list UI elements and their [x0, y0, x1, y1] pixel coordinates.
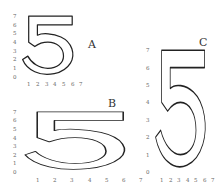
svg-text:1: 1 [36, 177, 40, 183]
svg-text:3: 3 [13, 48, 17, 54]
y-axis-ticks-a: 01234567 [13, 13, 17, 80]
svg-text:6: 6 [203, 177, 207, 183]
svg-text:4: 4 [88, 177, 92, 183]
svg-text:6: 6 [71, 81, 75, 87]
digit-five-grids-diagram: 01234567 1234567 A 01234567 1234567 B 01… [0, 0, 224, 191]
svg-text:4: 4 [53, 81, 57, 87]
x-axis-ticks-b: 1234567 [36, 177, 143, 183]
svg-text:5: 5 [105, 177, 109, 183]
svg-text:5: 5 [146, 82, 150, 88]
svg-text:4: 4 [186, 177, 190, 183]
svg-text:3: 3 [146, 117, 150, 123]
svg-text:5: 5 [13, 30, 17, 36]
svg-text:2: 2 [169, 177, 173, 183]
svg-text:1: 1 [146, 152, 150, 158]
svg-text:7: 7 [146, 47, 150, 53]
svg-text:5: 5 [13, 126, 17, 132]
x-axis-ticks-c: 1234567 [160, 177, 215, 183]
svg-text:2: 2 [13, 56, 17, 62]
panel-c: 01234567 1234567 C [146, 36, 215, 183]
svg-text:0: 0 [13, 169, 17, 175]
panel-label-c: C [199, 36, 207, 49]
svg-text:4: 4 [13, 135, 17, 141]
svg-text:6: 6 [122, 177, 126, 183]
svg-text:5: 5 [62, 81, 66, 87]
svg-text:7: 7 [13, 109, 17, 115]
svg-text:7: 7 [79, 81, 83, 87]
svg-text:3: 3 [45, 81, 49, 87]
panel-label-b: B [108, 97, 116, 110]
svg-text:4: 4 [13, 39, 17, 45]
digit-five-c [156, 50, 206, 167]
svg-text:6: 6 [146, 65, 150, 71]
svg-text:1: 1 [160, 177, 164, 183]
svg-text:3: 3 [13, 143, 17, 149]
svg-text:1: 1 [13, 65, 17, 71]
panel-label-a: A [87, 38, 97, 51]
svg-text:0: 0 [146, 169, 150, 175]
svg-text:7: 7 [13, 13, 17, 19]
svg-text:6: 6 [13, 117, 17, 123]
x-axis-ticks-a: 1234567 [27, 81, 83, 87]
digit-five-b [25, 112, 124, 170]
y-axis-ticks-b: 01234567 [13, 109, 17, 175]
svg-text:3: 3 [70, 177, 74, 183]
svg-text:7: 7 [211, 177, 215, 183]
svg-text:3: 3 [177, 177, 181, 183]
svg-text:2: 2 [13, 152, 17, 158]
panel-b: 01234567 1234567 B [13, 97, 143, 183]
svg-text:5: 5 [194, 177, 198, 183]
svg-text:0: 0 [13, 74, 17, 80]
svg-text:2: 2 [36, 81, 40, 87]
svg-text:2: 2 [53, 177, 57, 183]
svg-text:1: 1 [13, 160, 17, 166]
svg-text:7: 7 [139, 177, 143, 183]
y-axis-ticks-c: 01234567 [146, 47, 150, 175]
digit-five-a [23, 16, 73, 74]
panel-a: 01234567 1234567 A [13, 13, 97, 87]
svg-text:6: 6 [13, 22, 17, 28]
svg-text:4: 4 [146, 99, 150, 105]
svg-text:2: 2 [146, 134, 150, 140]
svg-text:1: 1 [27, 81, 31, 87]
